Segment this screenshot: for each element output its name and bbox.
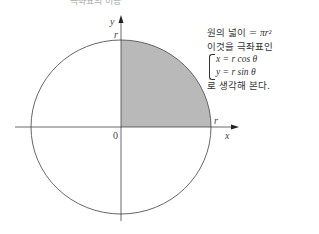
equation-x: x = r cos θ [216, 53, 273, 66]
equation-y: y = r sin θ [216, 66, 273, 79]
polar-equations: x = r cos θ y = r sin θ [209, 53, 273, 79]
x-axis-label: x [225, 130, 229, 141]
shaded-quarter-region [121, 40, 211, 127]
note-line-area: 원의 넓이 = πr² [207, 26, 273, 40]
origin-label: 0 [113, 130, 118, 141]
note-area-formula: πr² [260, 28, 271, 38]
brace-icon [209, 54, 215, 80]
y-axis-label: y [110, 16, 114, 27]
radius-label-top: r [114, 29, 118, 40]
radius-label-right: r [214, 115, 218, 126]
note-line-conclusion: 로 생각해 본다. [207, 79, 273, 92]
note-area-text: 원의 넓이 = [207, 27, 260, 38]
explanation-note: 원의 넓이 = πr² 이것을 극좌표인 x = r cos θ y = r s… [207, 26, 273, 92]
x-axis-arrow-icon [231, 125, 239, 130]
y-axis-arrow-icon [119, 15, 124, 23]
note-line-polar: 이것을 극좌표인 [207, 40, 273, 53]
